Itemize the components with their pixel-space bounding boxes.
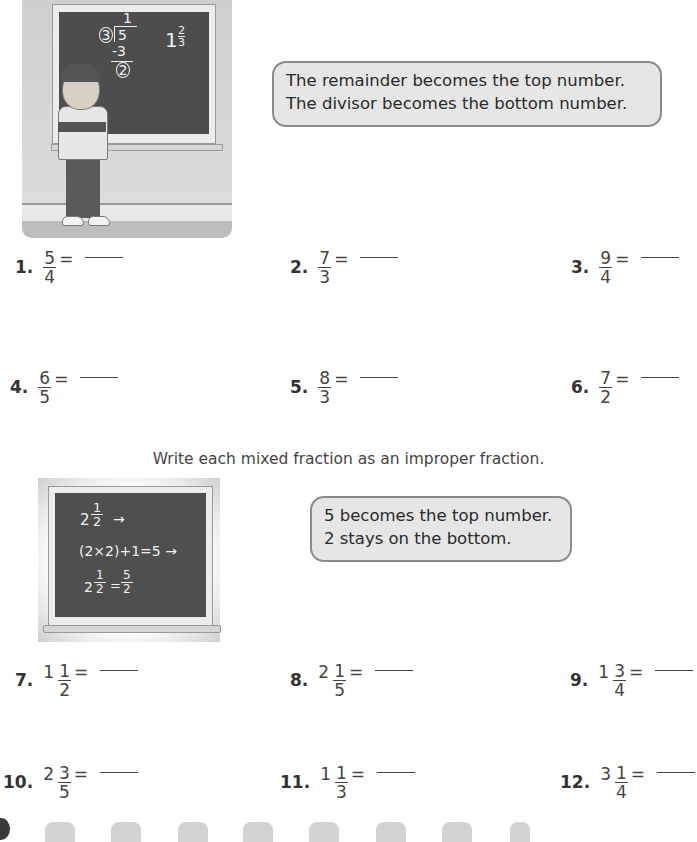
denominator: 4	[614, 681, 625, 699]
floor	[22, 221, 232, 238]
whole-number: 1	[320, 764, 331, 784]
equals-sign: =	[59, 249, 73, 269]
problem-number: 4.	[10, 377, 28, 397]
fraction: 15	[333, 662, 346, 699]
answer-blank[interactable]	[375, 670, 413, 671]
hint-line: 2 stays on the bottom.	[324, 527, 558, 550]
numerator: 1	[333, 662, 346, 681]
denominator: 5	[59, 783, 70, 801]
numerator: 1	[58, 662, 71, 681]
divisor-circled: 3	[99, 27, 113, 43]
problem-number: 1.	[15, 257, 33, 277]
problem-number: 11.	[280, 772, 310, 792]
answer-blank[interactable]	[100, 772, 138, 773]
boy-chalkboard-illustration: 1 3 5 -3 2 1 2 3	[22, 0, 232, 238]
answer-blank[interactable]	[655, 670, 693, 671]
equals-sign: =	[631, 764, 645, 784]
denominator: 2	[93, 515, 101, 528]
board-equals: =	[110, 578, 121, 593]
page-tab	[45, 822, 75, 842]
boy-pants	[66, 156, 100, 218]
denominator: 3	[319, 388, 330, 406]
equals-sign: =	[615, 369, 629, 389]
numerator: 7	[318, 249, 331, 268]
fraction: 72	[599, 369, 612, 406]
problem-11: 11. 1 13 =	[280, 760, 415, 804]
page-tab	[243, 822, 273, 842]
boy-shoe-right	[88, 216, 110, 226]
boy-hair	[60, 64, 100, 82]
answer-blank[interactable]	[360, 377, 398, 378]
equals-sign: =	[74, 764, 88, 784]
whole-number: 2	[43, 764, 54, 784]
hint-bubble-1: The remainder becomes the top number. Th…	[272, 61, 662, 127]
board-result-fraction: 5 2	[121, 569, 133, 596]
division-bracket	[114, 26, 115, 42]
denominator: 2	[96, 583, 104, 596]
fraction: 83	[318, 369, 331, 406]
numerator: 1	[615, 764, 628, 783]
answer-blank[interactable]	[100, 670, 138, 671]
fraction: 34	[613, 662, 626, 699]
numerator: 5	[121, 569, 133, 583]
equals-sign: =	[54, 369, 68, 389]
fraction: 35	[58, 764, 71, 801]
whole-number: 3	[600, 764, 611, 784]
dividend: 5	[118, 27, 127, 43]
answer-blank[interactable]	[360, 257, 398, 258]
board-fraction: 1 2	[94, 569, 106, 596]
answer-blank[interactable]	[80, 377, 118, 378]
problem-1: 1. 54 =	[15, 245, 123, 289]
problem-2: 2. 73 =	[290, 245, 398, 289]
problem-4: 4. 65 =	[10, 365, 118, 409]
denominator: 5	[334, 681, 345, 699]
whole-number: 1	[43, 662, 54, 682]
numerator: 9	[599, 249, 612, 268]
denominator: 3	[319, 268, 330, 286]
answer-blank[interactable]	[377, 772, 415, 773]
equals-sign: =	[334, 249, 348, 269]
boy-shoe-left	[62, 216, 84, 226]
problem-number: 8.	[290, 670, 308, 690]
problem-number: 10.	[3, 772, 33, 792]
problem-6: 6. 72 =	[571, 365, 679, 409]
hint-line: The divisor becomes the bottom number.	[286, 92, 648, 115]
denominator: 2	[600, 388, 611, 406]
subtraction: -3	[112, 43, 126, 59]
answer-blank[interactable]	[85, 257, 123, 258]
board-whole: 2	[84, 579, 93, 595]
problem-8: 8. 2 15 =	[290, 658, 413, 702]
equals-sign: =	[629, 662, 643, 682]
answer-blank[interactable]	[641, 257, 679, 258]
fraction: 65	[38, 369, 51, 406]
page-tab	[510, 822, 530, 842]
fraction: 54	[43, 249, 56, 286]
numerator: 7	[599, 369, 612, 388]
numerator: 3	[58, 764, 71, 783]
page-tab	[178, 822, 208, 842]
equals-sign: =	[334, 369, 348, 389]
whole-number: 2	[318, 662, 329, 682]
chalkboard: 2 1 2 → (2×2)+1=5 → 2 1 2 = 5 2	[48, 486, 213, 626]
problem-number: 3.	[571, 257, 589, 277]
hint-line: The remainder becomes the top number.	[286, 69, 648, 92]
board-fraction: 1 2	[91, 501, 103, 528]
problem-number: 12.	[560, 772, 590, 792]
arrow-icon: →	[113, 511, 125, 527]
problem-number: 5.	[290, 377, 308, 397]
problem-number: 6.	[571, 377, 589, 397]
fraction: 94	[599, 249, 612, 286]
mixed-fraction-chalkboard-illustration: 2 1 2 → (2×2)+1=5 → 2 1 2 = 5 2	[38, 478, 220, 642]
denominator: 4	[600, 268, 611, 286]
boy-shirt	[58, 106, 108, 160]
answer-blank[interactable]	[657, 772, 695, 773]
page-tab	[442, 822, 472, 842]
denominator: 2	[59, 681, 70, 699]
board-whole: 2	[80, 511, 90, 529]
problem-12: 12. 3 14 =	[560, 760, 695, 804]
numerator: 6	[38, 369, 51, 388]
problem-5: 5. 83 =	[290, 365, 398, 409]
hint-bubble-2: 5 becomes the top number. 2 stays on the…	[310, 496, 572, 562]
page-tab	[376, 822, 406, 842]
answer-blank[interactable]	[641, 377, 679, 378]
